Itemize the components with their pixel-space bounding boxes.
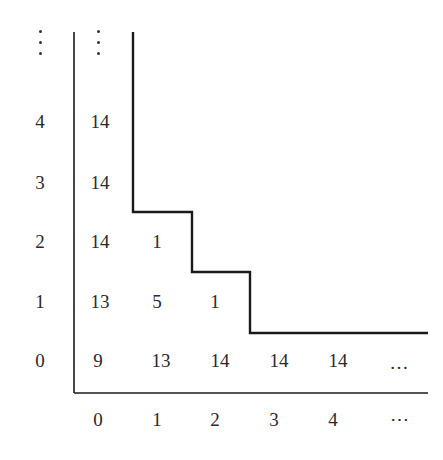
- col-label-0: 0: [93, 410, 103, 430]
- col-label-3: 3: [269, 410, 279, 430]
- cell-1-0: 13: [91, 292, 110, 312]
- col-label-4: 4: [328, 410, 338, 430]
- cell-0-2: 14: [211, 351, 230, 371]
- staircase-boundary: [133, 32, 428, 333]
- cell-vertical-dots: [96, 30, 100, 60]
- cell-0-3: 14: [270, 351, 289, 371]
- cell-3-0: 14: [91, 173, 110, 193]
- row-label-0: 0: [35, 351, 45, 371]
- row-label-3: 3: [35, 173, 45, 193]
- row-label-1: 1: [35, 292, 45, 312]
- cell-1-1: 5: [152, 292, 162, 312]
- row-label-2: 2: [35, 232, 45, 252]
- col-label-1: 1: [152, 410, 162, 430]
- cell-2-0: 14: [91, 232, 110, 252]
- cell-0-ellipsis: …: [390, 353, 411, 373]
- cell-2-1: 1: [152, 232, 162, 252]
- cell-1-2: 1: [210, 292, 220, 312]
- staircase-diagram: 4 3 2 1 0 0 1 2 3 4 ⋯ 14 14 14 13 9 1 5 …: [0, 0, 443, 460]
- row-label-4: 4: [35, 112, 45, 132]
- cell-4-0: 14: [91, 112, 110, 132]
- grid-lines: [0, 0, 443, 460]
- col-label-ellipsis: ⋯: [390, 410, 411, 430]
- cell-0-0: 9: [93, 351, 103, 371]
- cell-0-1: 13: [152, 351, 171, 371]
- col-label-2: 2: [210, 410, 220, 430]
- cell-0-4: 14: [329, 351, 348, 371]
- row-label-vertical-dots: [38, 30, 42, 60]
